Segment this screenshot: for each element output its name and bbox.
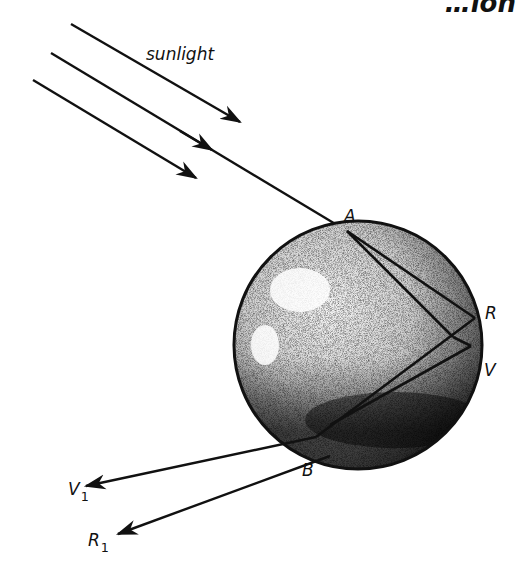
incident-arrowhead-segment bbox=[180, 131, 212, 150]
raindrop-diagram: …ion sunlight A R V B V1 R1 bbox=[0, 0, 522, 580]
label-V1-subscript: 1 bbox=[81, 489, 89, 504]
highlight-upper bbox=[270, 268, 330, 312]
sunlight-ray-bottom bbox=[33, 80, 196, 178]
raindrop bbox=[230, 220, 490, 470]
sunlight-ray-top bbox=[71, 24, 240, 122]
ray-violet-out bbox=[86, 437, 316, 486]
clipped-header-text: …ion bbox=[445, 0, 516, 18]
label-R1-main: R bbox=[88, 530, 100, 550]
label-R1: R1 bbox=[88, 532, 109, 554]
label-R: R bbox=[485, 305, 497, 322]
label-A: A bbox=[344, 208, 356, 225]
label-V1: V1 bbox=[68, 481, 89, 503]
label-V1-main: V bbox=[68, 479, 80, 499]
highlight-lower bbox=[251, 325, 279, 365]
label-B: B bbox=[302, 462, 314, 479]
ray-red-out bbox=[118, 456, 330, 534]
label-sunlight: sunlight bbox=[146, 46, 214, 63]
label-R1-subscript: 1 bbox=[101, 540, 109, 555]
label-V: V bbox=[484, 362, 496, 379]
